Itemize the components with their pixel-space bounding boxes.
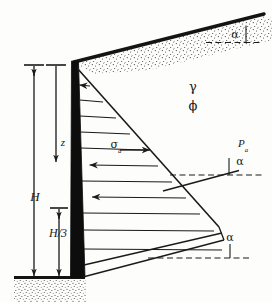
- dimension-line-third-height: [50, 208, 68, 276]
- pressure-ordinate: [80, 116, 116, 118]
- pressure-ordinate: [92, 197, 186, 198]
- pressure-ordinate: [80, 100, 103, 102]
- pressure-ordinate: [90, 165, 159, 166]
- pressure-ordinate: [82, 213, 200, 214]
- backfill-surface-group: [74, 14, 272, 74]
- dimension-line-height: [24, 65, 44, 276]
- pressure-ordinate: [82, 181, 172, 182]
- pressure-ordinate: [83, 230, 214, 231]
- pressure-envelope-line: [77, 68, 219, 227]
- resultant-force-vector: [163, 158, 262, 191]
- active-pressure-distribution: [77, 68, 222, 250]
- figure-canvas: [0, 0, 272, 302]
- earth-pressure-figure: z H H/3 γ ϕ σa Pa α α α: [0, 0, 272, 302]
- backfill-stipple: [76, 16, 272, 74]
- foundation-soil-stipple: [14, 279, 86, 302]
- resultant-force-line: [163, 171, 239, 192]
- resultant-band-group: [83, 227, 224, 277]
- retaining-wall: [71, 61, 86, 278]
- foundation-soil-group: [14, 278, 86, 302]
- pressure-ordinate: [80, 132, 130, 134]
- depth-axis-arrow: [46, 65, 66, 162]
- pressure-ordinate: [79, 85, 90, 86]
